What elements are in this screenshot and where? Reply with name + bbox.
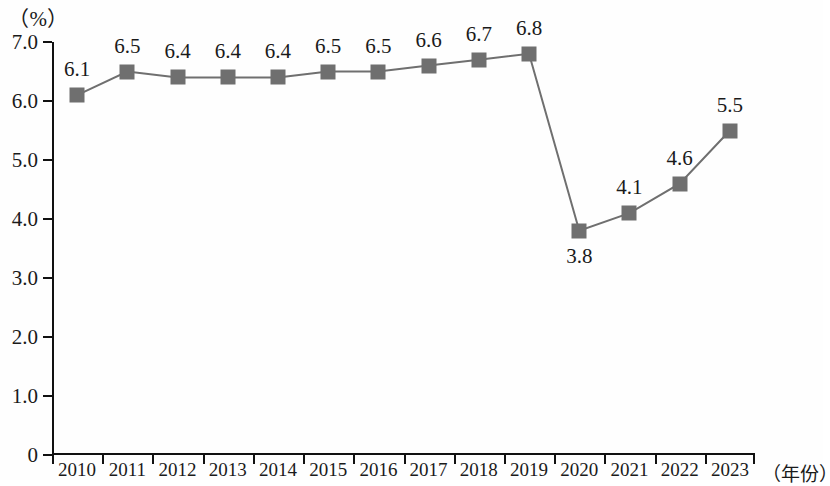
data-point-label: 6.7 (466, 22, 492, 47)
y-axis-tick: 2.0 (43, 336, 52, 338)
x-axis-tick (753, 455, 755, 464)
x-axis-tick-label: 2018 (460, 459, 498, 481)
y-axis-tick: 5.0 (43, 159, 52, 161)
data-point-label: 6.5 (365, 34, 391, 59)
data-point-marker (220, 70, 235, 85)
y-axis-tick-label: 2.0 (12, 325, 38, 350)
x-axis-tick (404, 455, 406, 464)
data-point-label: 5.5 (717, 93, 743, 118)
x-axis-tick-label: 2011 (109, 459, 146, 481)
data-point-marker (622, 206, 637, 221)
data-point-label: 6.1 (64, 57, 90, 82)
x-axis-tick-label: 2022 (661, 459, 699, 481)
data-point-marker (270, 70, 285, 85)
data-point-label: 3.8 (566, 244, 592, 269)
data-point-marker (170, 70, 185, 85)
y-axis-tick: 7.0 (43, 41, 52, 43)
data-point-label: 6.4 (164, 39, 190, 64)
data-point-label: 6.8 (516, 16, 542, 41)
x-axis-tick-label: 2023 (711, 459, 749, 481)
x-axis-tick (705, 455, 707, 464)
data-point-label: 6.5 (315, 34, 341, 59)
data-point-marker (672, 176, 687, 191)
data-point-marker (70, 88, 85, 103)
x-axis-tick (253, 455, 255, 464)
x-axis-tick (554, 455, 556, 464)
y-axis-tick-label: 5.0 (12, 148, 38, 173)
x-axis-tick-label: 2021 (610, 459, 648, 481)
x-axis-tick (303, 455, 305, 464)
x-axis-tick (604, 455, 606, 464)
data-point-label: 6.4 (265, 39, 291, 64)
x-axis-tick-label: 2017 (410, 459, 448, 481)
x-axis-tick (102, 455, 104, 464)
x-axis-tick (152, 455, 154, 464)
x-axis-caption: （年份） (762, 459, 830, 486)
x-axis-tick-label: 2015 (309, 459, 347, 481)
data-point-label: 4.1 (616, 175, 642, 200)
data-point-marker (471, 52, 486, 67)
x-axis-tick-label: 2010 (58, 459, 96, 481)
y-axis-tick: 3.0 (43, 277, 52, 279)
y-axis-tick: 0 (43, 454, 52, 456)
y-axis-tick-label: 1.0 (12, 384, 38, 409)
data-point-label: 6.5 (114, 34, 140, 59)
data-point-marker (722, 123, 737, 138)
x-axis-tick (454, 455, 456, 464)
data-point-label: 4.6 (667, 146, 693, 171)
x-axis-tick-label: 2012 (159, 459, 197, 481)
data-point-marker (421, 58, 436, 73)
x-axis-tick-label: 2019 (510, 459, 548, 481)
x-axis-tick (353, 455, 355, 464)
y-axis-tick: 6.0 (43, 100, 52, 102)
x-axis-tick (655, 455, 657, 464)
x-axis-tick-label: 2016 (359, 459, 397, 481)
y-axis-tick-label: 6.0 (12, 89, 38, 114)
data-point-label: 6.4 (215, 39, 241, 64)
data-point-label: 6.6 (415, 28, 441, 53)
data-point-marker (572, 223, 587, 238)
y-axis-tick: 4.0 (43, 218, 52, 220)
y-axis-tick-label: 0 (28, 443, 39, 468)
y-axis-tick: 1.0 (43, 395, 52, 397)
y-axis-unit-label: （%） (8, 2, 69, 32)
y-axis-tick-label: 7.0 (12, 30, 38, 55)
y-axis-tick-label: 3.0 (12, 266, 38, 291)
data-point-marker (522, 46, 537, 61)
data-point-marker (371, 64, 386, 79)
x-axis-tick (203, 455, 205, 464)
series-line (52, 42, 755, 455)
plot-area: 7.06.05.04.03.02.01.00 6.16.56.46.46.46.… (52, 42, 755, 455)
x-axis-tick-label: 2013 (209, 459, 247, 481)
x-axis-tick-label: 2014 (259, 459, 297, 481)
data-point-marker (120, 64, 135, 79)
data-point-marker (321, 64, 336, 79)
x-axis-tick-label: 2020 (560, 459, 598, 481)
x-axis-tick (504, 455, 506, 464)
x-axis-tick (52, 455, 54, 464)
y-axis-tick-label: 4.0 (12, 207, 38, 232)
